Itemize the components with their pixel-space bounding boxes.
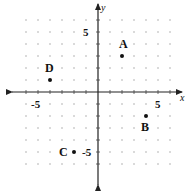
y-axis-label: y [100,2,106,13]
point-label-a: A [119,37,128,51]
point-b [144,114,148,118]
x-tick-label: 5 [155,98,161,110]
x-tick-label: -5 [31,98,41,110]
point-label-c: C [59,145,68,159]
y-tick-label: -5 [82,146,92,158]
point-label-d: D [45,61,54,75]
y-tick-label: 5 [83,26,89,38]
point-label-b: B [141,120,149,134]
point-a [120,54,124,58]
coordinate-plane: x y -555-5 ABCD [0,0,191,192]
plotted-points: ABCD [45,37,149,159]
point-c [72,150,76,154]
point-d [48,78,52,82]
x-axis-label: x [179,92,185,103]
